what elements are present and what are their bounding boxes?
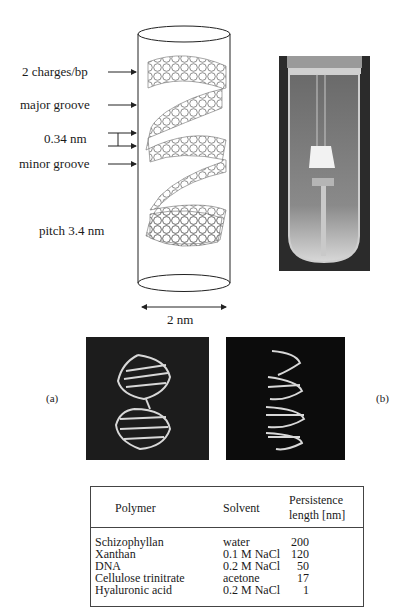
cell-length: 200 (285, 528, 364, 549)
header-persistence-length: Persistence length [nm] (285, 487, 364, 528)
persistence-length-table: Polymer Solvent Persistence length [nm] … (90, 486, 364, 607)
dna-helix-model (146, 56, 226, 246)
label-major-groove: major groove (20, 97, 90, 113)
label-base-rise: 0.34 nm (44, 131, 87, 147)
table-row: Schizophyllan water 200 (91, 528, 364, 549)
table-header-row: Polymer Solvent Persistence length [nm] (91, 487, 364, 528)
cell-polymer: Schizophyllan (91, 528, 220, 549)
panel-a-dna-model (86, 337, 209, 460)
cell-polymer: Hyaluronic acid (91, 584, 220, 607)
cell-length: 17 (285, 572, 364, 584)
cell-length: 1 (285, 584, 364, 607)
label-charges-per-bp: 2 charges/bp (22, 64, 88, 80)
dna-stick-model-b-icon (226, 337, 345, 460)
panel-b-dna-model (226, 337, 345, 460)
header-solvent: Solvent (219, 487, 285, 528)
label-pitch: pitch 3.4 nm (39, 223, 104, 239)
label-diameter: 2 nm (167, 312, 193, 328)
table-row: Hyaluronic acid 0.2 M NaCl 1 (91, 584, 364, 607)
test-tube-photo (279, 56, 370, 271)
header-polymer: Polymer (91, 487, 220, 528)
cell-solvent: water (219, 528, 285, 549)
panel-b-label: (b) (376, 392, 389, 404)
cell-solvent: 0.2 M NaCl (219, 584, 285, 607)
dna-stick-model-a-icon (86, 337, 209, 460)
panel-a-label: (a) (46, 392, 58, 404)
label-minor-groove: minor groove (19, 156, 89, 172)
